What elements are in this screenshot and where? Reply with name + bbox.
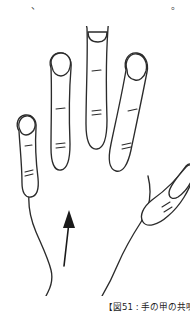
pinky-nail — [19, 116, 35, 135]
text-column-1: か 、 — [29, 0, 42, 11]
arrow-shaft — [64, 222, 69, 266]
text-column-8: ん 。 — [169, 0, 182, 11]
middle-finger-nail — [88, 32, 107, 42]
upward-arrow — [63, 210, 75, 266]
hand-illustration — [0, 26, 190, 296]
arrow-head — [63, 210, 75, 228]
scanned-book-page: か 、 だ く っ で が り ん 。 — [0, 0, 190, 318]
figure-caption: 【図51 : 手の甲の共鳴 — [104, 300, 190, 314]
hand-back-outline — [29, 176, 150, 296]
ring-finger-nail — [51, 53, 70, 76]
index-finger-nail — [126, 54, 146, 80]
middle-finger — [86, 26, 108, 149]
vertical-text-block: か 、 だ く っ で が り ん 。 — [0, 0, 190, 26]
